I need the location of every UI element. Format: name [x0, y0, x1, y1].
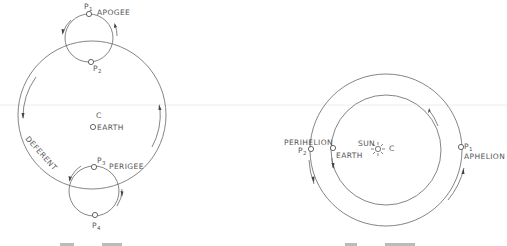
heliocentric-diagram: PERIHELION P2 EARTH SUN C P1 APHELION — [284, 74, 505, 226]
perihelion-p2-marker — [308, 146, 313, 151]
sun-label: SUN — [358, 139, 375, 148]
perigee-label: PERIGEE — [109, 162, 144, 171]
deferent-arrow-left-head — [22, 113, 25, 119]
point-p1-marker — [86, 11, 91, 16]
epicycle-top-circle — [65, 14, 113, 62]
deferent-arrow-right-arc — [152, 108, 160, 147]
p1-label: P1 — [84, 2, 93, 12]
diagram-canvas: P1 APOGEE P2 P3 PERIGEE P4 C EARTH DEFER… — [0, 0, 507, 246]
apogee-label: APOGEE — [97, 8, 130, 17]
epicycle-diagram: P1 APOGEE P2 P3 PERIGEE P4 C EARTH DEFER… — [18, 2, 166, 231]
center-c-right-label: C — [389, 144, 395, 153]
p3-label: P3 — [97, 156, 106, 166]
p4-label: P4 — [92, 221, 101, 231]
point-p4-marker — [92, 212, 97, 217]
center-c-label: C — [96, 111, 102, 120]
p2-label: P2 — [93, 64, 102, 74]
epicycle-top-arrow-left-arc — [63, 20, 71, 33]
epicycle-top-arrow-right-head — [114, 23, 117, 28]
p2-right-label: P2 — [298, 146, 307, 156]
earth-right-label: EARTH — [336, 151, 363, 160]
epicycle-bottom-arrow-right-head — [121, 191, 124, 197]
earth-marker — [90, 124, 95, 129]
outer-orbit-arrow-right-arc — [448, 168, 464, 200]
epicycle-bottom-circle — [69, 166, 119, 216]
perihelion-label: PERIHELION — [284, 138, 333, 147]
epicycle-top-arrow-left-head — [62, 29, 65, 35]
aphelion-label: APHELION — [464, 152, 505, 161]
epicycle-bottom-arrow-left-arc — [70, 166, 81, 180]
point-p3-marker — [91, 164, 96, 169]
aphelion-p1-marker — [458, 144, 463, 149]
inner-orbit-arrow-top-head — [428, 108, 431, 113]
inner-orbit-circle — [331, 95, 441, 205]
p1-right-label: P1 — [464, 142, 473, 152]
earth-label: EARTH — [97, 123, 124, 132]
